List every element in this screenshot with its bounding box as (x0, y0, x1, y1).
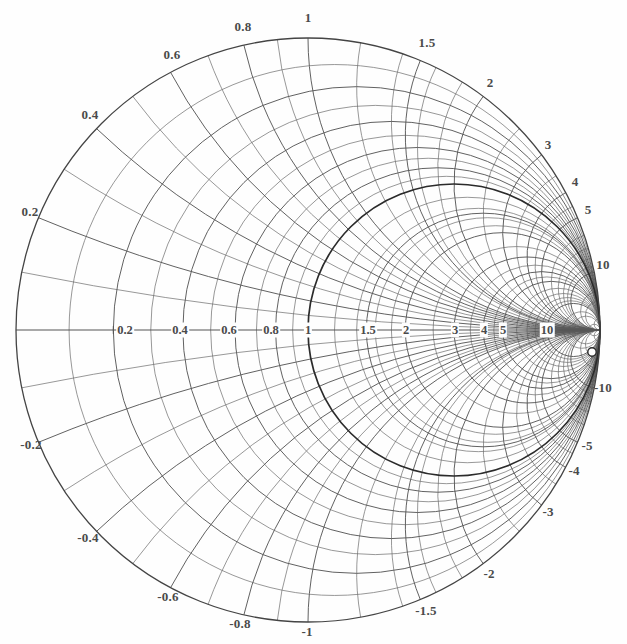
axis-tick-label-3: 0.8 (262, 323, 280, 338)
axis-tick-label-9: 5 (499, 323, 507, 338)
reactance-label-negative-6: -2 (483, 566, 494, 582)
axis-tick-label-7: 3 (451, 323, 459, 338)
reactance-arc-minor (438, 330, 600, 578)
smith-marker-group[interactable] (588, 348, 596, 356)
reactance-label-positive-10: 10 (596, 257, 609, 273)
reactance-label-negative-0: -0.2 (20, 437, 41, 453)
reactance-label-negative-1: -0.4 (77, 530, 98, 546)
reactance-label-negative-7: -3 (542, 504, 553, 520)
smith-chart-canvas (0, 0, 627, 644)
axis-tick-label-2: 0.6 (220, 323, 238, 338)
reactance-label-positive-4: 1 (305, 10, 312, 26)
reactance-label-negative-3: -0.8 (229, 616, 250, 632)
axis-tick-label-1: 0.4 (171, 323, 189, 338)
reactance-label-positive-1: 0.4 (82, 107, 99, 123)
reactance-label-negative-9: -5 (581, 438, 592, 454)
reactance-label-negative-10: -10 (594, 380, 612, 396)
reactance-label-positive-6: 2 (487, 75, 494, 91)
axis-tick-label-6: 2 (402, 323, 410, 338)
reactance-label-positive-9: 5 (585, 202, 592, 218)
axis-tick-label-4: 1 (304, 323, 312, 338)
reactance-arc-major (405, 60, 600, 330)
reactance-label-negative-2: -0.6 (157, 589, 178, 605)
axis-tick-label-8: 4 (480, 323, 488, 338)
reactance-arc-minor (438, 82, 600, 330)
reactance-label-negative-8: -4 (568, 463, 579, 479)
reactance-label-negative-4: -1 (301, 624, 312, 640)
data-point-marker[interactable] (588, 348, 596, 356)
reactance-label-positive-3: 0.8 (235, 19, 252, 35)
smith-chart-figure: 0.20.40.60.811.5234510 0.20.40.60.811.52… (0, 0, 627, 644)
reactance-label-positive-7: 3 (545, 137, 552, 153)
axis-tick-label-10: 10 (540, 323, 555, 338)
axis-tick-label-5: 1.5 (359, 323, 377, 338)
reactance-label-negative-5: -1.5 (415, 603, 436, 619)
reactance-label-positive-2: 0.6 (164, 47, 181, 63)
reactance-label-positive-5: 1.5 (419, 35, 436, 51)
reactance-label-positive-0: 0.2 (22, 204, 39, 220)
axis-tick-label-0: 0.2 (116, 323, 134, 338)
reactance-label-positive-8: 4 (572, 174, 579, 190)
